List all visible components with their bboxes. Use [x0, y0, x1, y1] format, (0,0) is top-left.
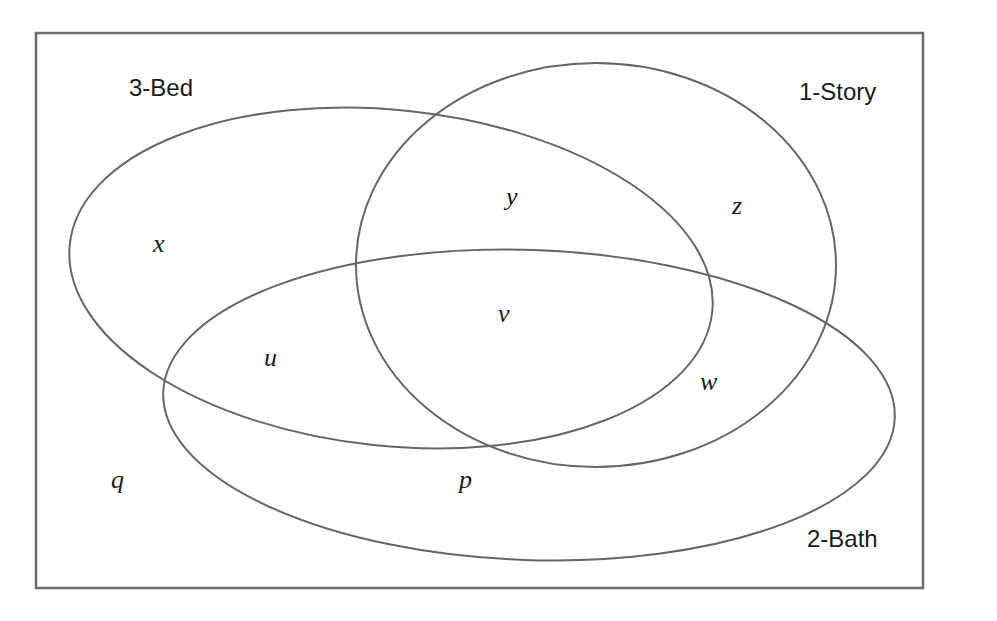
region-label-z: z [731, 191, 742, 220]
region-label-p: p [457, 465, 472, 494]
set-label-3-bed: 3-Bed [129, 74, 193, 101]
set-1-story-ellipse [356, 63, 836, 467]
region-label-q: q [111, 465, 124, 494]
set-3-bed-ellipse [52, 77, 730, 479]
universal-set-frame [36, 33, 923, 588]
set-label-2-bath: 2-Bath [807, 525, 878, 552]
region-label-x: x [152, 229, 165, 258]
region-label-w: w [700, 367, 718, 396]
set-label-1-story: 1-Story [799, 78, 876, 105]
region-label-u: u [264, 343, 277, 372]
venn-diagram: 3-Bed 1-Story 2-Bath x y z v u w p q [0, 0, 997, 621]
set-2-bath-ellipse [158, 237, 900, 572]
region-label-v: v [498, 299, 510, 328]
region-label-y: y [503, 182, 518, 211]
